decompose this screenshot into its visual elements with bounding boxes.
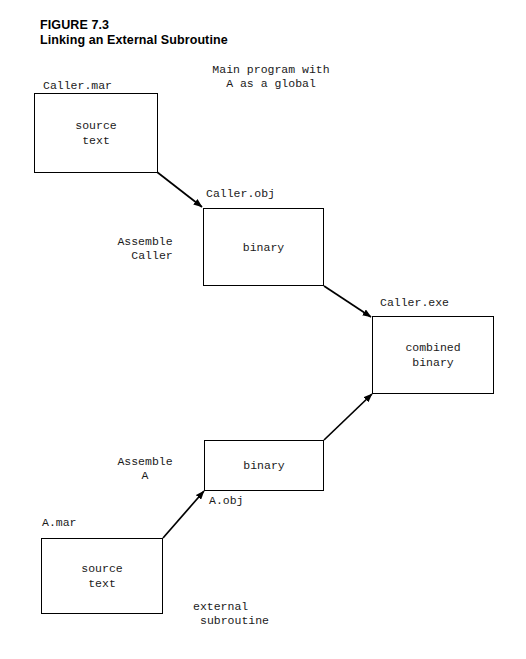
assemble-caller-line2: Caller [102, 249, 202, 263]
figure-title: FIGURE 7.3 Linking an External Subroutin… [40, 18, 228, 48]
box-caller-source-text: source text [75, 118, 116, 148]
figure-page: FIGURE 7.3 Linking an External Subroutin… [0, 0, 526, 659]
box-a-source: source text [41, 538, 163, 614]
box-caller-binary-text: binary [243, 240, 284, 255]
box-combined-binary-text: combined binary [405, 340, 460, 370]
arrow-caller-source-to-caller-binary [157, 172, 202, 207]
main-program-note-line1: Main program with [196, 63, 346, 77]
box-a-binary-text: binary [243, 458, 284, 473]
box-a-binary: binary [204, 440, 324, 491]
arrow-caller-binary-to-combined [324, 286, 371, 317]
external-note-line1: external [193, 600, 248, 614]
arrow-a-binary-to-combined [324, 394, 372, 440]
external-note-line2: subroutine [200, 614, 269, 628]
box-combined-binary: combined binary [372, 316, 494, 394]
label-a-mar: A.mar [42, 516, 77, 530]
assemble-caller-line1: Assemble [95, 235, 195, 249]
box-caller-source: source text [34, 93, 158, 173]
assemble-a-line2: A [95, 469, 195, 483]
box-caller-binary: binary [203, 208, 324, 286]
label-a-obj: A.obj [209, 494, 244, 508]
figure-caption: Linking an External Subroutine [40, 33, 228, 48]
figure-number: FIGURE 7.3 [40, 18, 228, 33]
label-caller-mar: Caller.mar [43, 79, 112, 93]
label-caller-exe: Caller.exe [380, 296, 449, 310]
box-a-source-text: source text [81, 561, 122, 591]
label-caller-obj: Caller.obj [206, 187, 275, 201]
main-program-note-line2: A as a global [196, 77, 346, 91]
assemble-a-line1: Assemble [95, 455, 195, 469]
arrow-a-source-to-a-binary [163, 491, 204, 538]
